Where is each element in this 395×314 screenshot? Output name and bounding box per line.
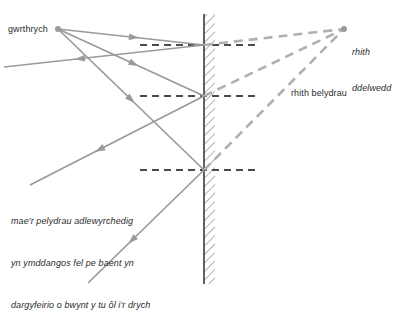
- normal-lines: [140, 45, 258, 170]
- endpoint-dots: [55, 26, 347, 32]
- explanation-note-line2: yn ymddangos fel pe baent yn: [11, 256, 150, 270]
- reflected-ray-1: [4, 45, 204, 67]
- virtual-ray-3: [204, 29, 344, 170]
- reflected-ray-arrow-2: [94, 144, 106, 155]
- object-point: [55, 26, 61, 32]
- explanation-note-line1: mae'r pelydrau adlewyrchedig: [11, 214, 150, 228]
- incident-ray-arrow-2: [128, 59, 140, 69]
- virtual-image-label-line1: rhith: [352, 46, 391, 58]
- reflected-ray-arrow-1: [75, 55, 86, 63]
- mirror-hatching: [204, 14, 215, 284]
- virtual-rays-label: rhith belydrau: [291, 87, 347, 99]
- explanation-note-line3: dargyfeirio o bwynt y tu ôl i'r drych: [11, 298, 150, 312]
- explanation-note: mae'r pelydrau adlewyrchedig yn ymddango…: [11, 186, 150, 314]
- virtual-image-label: rhith ddelwedd: [352, 22, 391, 118]
- object-label: gwrthrych: [8, 23, 48, 35]
- incident-ray-arrow-1: [129, 33, 140, 41]
- virtual-image-point: [341, 26, 347, 32]
- virtual-ray-1: [204, 29, 344, 45]
- mirror: [204, 14, 215, 284]
- virtual-image-label-line2: ddelwedd: [352, 82, 391, 94]
- virtual-rays: [204, 29, 344, 170]
- reflected-ray-2: [30, 96, 204, 185]
- virtual-ray-2: [204, 29, 344, 96]
